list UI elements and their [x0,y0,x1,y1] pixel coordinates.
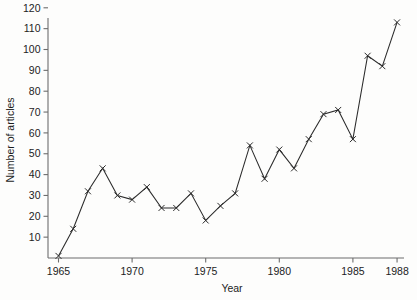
x-axis-title: Year [221,282,243,294]
data-point-marker [129,197,135,203]
data-point-marker [217,203,223,209]
data-point-marker [335,107,341,113]
data-point-marker [232,190,238,196]
data-point-marker [394,19,400,25]
series-line [59,22,398,256]
y-axis-title: Number of articles [4,97,16,182]
y-tick-label: 90 [29,64,41,76]
data-point-marker [70,226,76,232]
y-tick-label: 10 [29,231,41,243]
y-tick-label: 20 [29,210,41,222]
x-tick-label: 1975 [194,265,218,277]
y-tick-label: 120 [23,2,41,14]
data-point-marker [247,142,253,148]
line-chart: 102030405060708090100110120 196519701975… [0,0,417,300]
y-tick-label: 60 [29,127,41,139]
data-point-marker [291,165,297,171]
x-tick-label: 1988 [385,265,409,277]
data-point-marker [320,111,326,117]
data-point-marker [306,136,312,142]
data-series [59,22,398,256]
chart-figure: 102030405060708090100110120 196519701975… [0,0,417,300]
y-axis-ticks: 102030405060708090100110120 [23,2,48,243]
x-tick-label: 1985 [341,265,365,277]
x-tick-label: 1980 [268,265,292,277]
y-tick-label: 30 [29,189,41,201]
data-point-marker [276,147,282,153]
y-tick-label: 40 [29,168,41,180]
axes [48,18,404,258]
y-tick-label: 50 [29,147,41,159]
data-point-marker [85,188,91,194]
data-point-marker [203,217,209,223]
data-point-marker [144,184,150,190]
data-point-marker [262,176,268,182]
x-tick-label: 1965 [47,265,71,277]
y-tick-label: 110 [24,22,41,34]
y-tick-label: 80 [29,85,41,97]
data-point-markers [56,19,401,259]
y-tick-label: 100 [23,43,41,55]
x-axis-ticks: 196519701975198019851988 [47,258,409,277]
y-tick-label: 70 [29,106,41,118]
data-point-marker [114,192,120,198]
data-point-marker [188,190,194,196]
data-point-marker [100,165,106,171]
x-tick-label: 1970 [120,265,144,277]
data-point-marker [379,63,385,69]
